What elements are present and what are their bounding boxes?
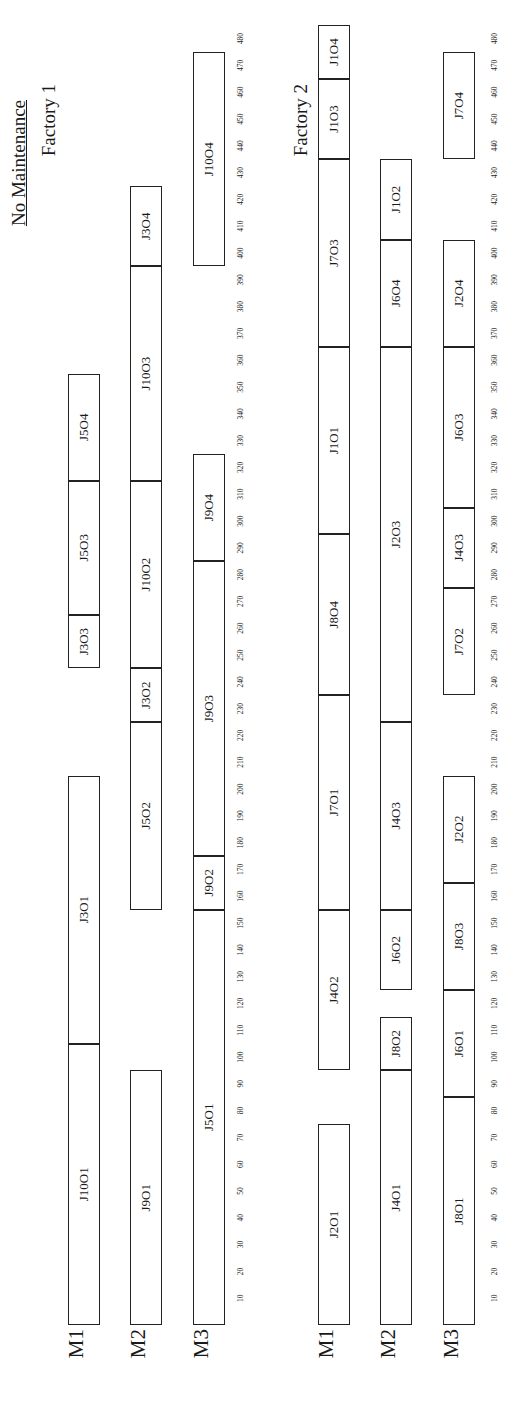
task-bar: J3O3	[68, 615, 100, 669]
axis-tick-label: 410	[490, 221, 499, 232]
axis-tick-label: 150	[490, 917, 499, 928]
task-bar: J4O3	[380, 722, 412, 910]
task-bar: J6O3	[443, 347, 475, 508]
axis-tick-label: 370	[490, 328, 499, 339]
machine-label: M2	[376, 1329, 401, 1358]
axis-tick-label: 360	[490, 355, 499, 366]
axis-tick-label: 40	[236, 1214, 245, 1222]
axis-tick-label: 390	[490, 274, 499, 285]
axis-tick-label: 10	[236, 1294, 245, 1302]
task-bar: J9O3	[193, 561, 225, 856]
axis-tick-label: 130	[490, 971, 499, 982]
axis-tick-label: 280	[490, 569, 499, 580]
task-bar: J3O4	[130, 186, 162, 266]
axis-tick-label: 300	[490, 515, 499, 526]
axis-tick-label: 250	[236, 649, 245, 660]
axis-tick-label: 340	[236, 408, 245, 419]
axis-tick-label: 470	[490, 60, 499, 71]
axis-tick-label: 10	[490, 1294, 499, 1302]
axis-tick-label: 380	[490, 301, 499, 312]
axis-tick-label: 350	[490, 381, 499, 392]
task-bar: J10O3	[130, 266, 162, 480]
axis-tick-label: 100	[236, 1051, 245, 1062]
axis-tick-label: 410	[236, 221, 245, 232]
task-bar: J10O4	[193, 52, 225, 266]
axis-tick-label: 20	[236, 1268, 245, 1276]
axis-tick-label: 350	[236, 381, 245, 392]
task-bar: J7O3	[318, 159, 350, 347]
axis-tick-label: 240	[236, 676, 245, 687]
task-bar: J1O2	[380, 159, 412, 239]
axis-tick-label: 30	[236, 1241, 245, 1249]
task-bar: J2O3	[380, 347, 412, 722]
axis-tick-label: 430	[236, 167, 245, 178]
axis-tick-label: 450	[490, 113, 499, 124]
task-bar: J5O3	[68, 481, 100, 615]
axis-tick-label: 70	[236, 1134, 245, 1142]
axis-tick-label: 180	[490, 837, 499, 848]
axis-tick-label: 50	[490, 1187, 499, 1195]
axis-tick-label: 50	[236, 1187, 245, 1195]
axis-tick-label: 390	[236, 274, 245, 285]
axis-tick-label: 260	[490, 623, 499, 634]
axis-tick-label: 420	[236, 194, 245, 205]
machine-label: M3	[189, 1329, 214, 1358]
axis-tick-label: 170	[490, 864, 499, 875]
axis-tick-label: 200	[490, 783, 499, 794]
task-bar: J2O4	[443, 240, 475, 347]
task-bar: J8O2	[380, 1017, 412, 1071]
axis-tick-label: 160	[236, 891, 245, 902]
task-bar: J2O1	[318, 1124, 350, 1325]
axis-tick-label: 160	[490, 891, 499, 902]
axis-tick-label: 100	[490, 1051, 499, 1062]
axis-tick-label: 170	[236, 864, 245, 875]
task-bar: J4O1	[380, 1070, 412, 1325]
axis-tick-label: 270	[236, 596, 245, 607]
task-bar: J1O1	[318, 347, 350, 535]
axis-tick-label: 310	[236, 489, 245, 500]
axis-tick-label: 140	[236, 944, 245, 955]
axis-tick-label: 60	[490, 1160, 499, 1168]
axis-tick-label: 380	[236, 301, 245, 312]
task-bar: J7O4	[443, 52, 475, 159]
task-bar: J6O4	[380, 240, 412, 347]
axis-tick-label: 360	[236, 355, 245, 366]
axis-tick-label: 310	[490, 489, 499, 500]
task-bar: J6O1	[443, 990, 475, 1097]
axis-tick-label: 90	[490, 1080, 499, 1088]
axis-tick-label: 130	[236, 971, 245, 982]
task-bar: J7O1	[318, 695, 350, 909]
axis-tick-label: 250	[490, 649, 499, 660]
task-bar: J3O2	[130, 668, 162, 722]
factory-label: Factory 2	[290, 84, 312, 156]
task-bar: J1O4	[318, 25, 350, 79]
axis-tick-label: 270	[490, 596, 499, 607]
machine-label: M2	[126, 1329, 151, 1358]
axis-tick-label: 190	[236, 810, 245, 821]
axis-tick-label: 420	[490, 194, 499, 205]
task-bar: J10O1	[68, 1044, 100, 1325]
axis-tick-label: 480	[490, 33, 499, 44]
axis-tick-label: 80	[236, 1107, 245, 1115]
axis-tick-label: 320	[490, 462, 499, 473]
axis-tick-label: 450	[236, 113, 245, 124]
axis-tick-label: 120	[236, 998, 245, 1009]
axis-tick-label: 30	[490, 1241, 499, 1249]
axis-tick-label: 300	[236, 515, 245, 526]
axis-tick-label: 110	[236, 1025, 245, 1036]
axis-tick-label: 260	[236, 623, 245, 634]
axis-tick-label: 230	[236, 703, 245, 714]
task-bar: J1O3	[318, 79, 350, 159]
machine-label: M1	[64, 1329, 89, 1358]
axis-tick-label: 70	[490, 1134, 499, 1142]
task-bar: J9O2	[193, 856, 225, 910]
task-bar: J8O4	[318, 534, 350, 695]
axis-tick-label: 60	[236, 1160, 245, 1168]
axis-tick-label: 460	[490, 87, 499, 98]
axis-tick-label: 120	[490, 998, 499, 1009]
task-bar: J8O1	[443, 1097, 475, 1325]
axis-tick-label: 470	[236, 60, 245, 71]
axis-tick-label: 440	[490, 140, 499, 151]
axis-tick-label: 430	[490, 167, 499, 178]
axis-tick-label: 440	[236, 140, 245, 151]
